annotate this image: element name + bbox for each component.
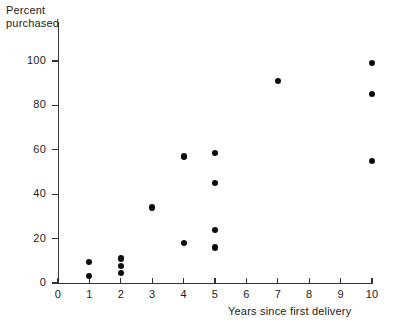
data-points-layer: [0, 0, 395, 325]
data-point: [181, 153, 187, 159]
data-point: [369, 158, 375, 164]
data-point: [369, 91, 375, 97]
data-point: [212, 150, 218, 156]
data-point: [212, 244, 218, 250]
data-point: [181, 240, 187, 246]
data-point: [275, 78, 281, 84]
x-axis-label: Years since first delivery: [228, 305, 351, 317]
data-point: [369, 60, 375, 66]
data-point: [86, 259, 92, 265]
data-point: [212, 227, 218, 233]
data-point: [86, 273, 92, 279]
data-point: [212, 180, 218, 186]
data-point: [149, 204, 155, 210]
data-point: [118, 270, 124, 276]
scatter-plot-figure: Percentpurchased 020406080100 0123456789…: [0, 0, 395, 325]
data-point: [118, 255, 124, 261]
data-point: [118, 263, 124, 269]
